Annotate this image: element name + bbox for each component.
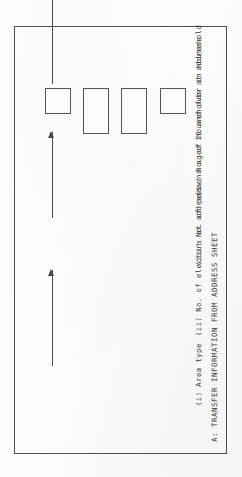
form-item-iv-label: (iv) No. of households at address <box>194 37 203 196</box>
section-title: A: TRANSFER INFORMATION FROM ADDRESS SHE… <box>210 232 219 442</box>
form-item-i-arrow <box>51 270 53 366</box>
answer-box-persons-16-over[interactable] <box>121 88 147 134</box>
form-item-ii-arrow <box>51 132 53 218</box>
form-page: A: TRANSFER INFORMATION FROM ADDRESS SHE… <box>0 0 242 477</box>
answer-box-area-type[interactable] <box>45 88 71 114</box>
arrow-stem <box>52 270 53 366</box>
answer-box-electors[interactable] <box>83 88 109 134</box>
arrow-stem <box>52 0 53 84</box>
arrow-head-icon <box>48 131 54 138</box>
arrow-head-icon <box>48 269 54 276</box>
form-item-i-label: (i) Area type <box>194 343 203 406</box>
answer-box-households[interactable] <box>160 88 186 114</box>
form-item-iv-arrow <box>51 0 53 84</box>
arrow-stem <box>52 132 53 218</box>
